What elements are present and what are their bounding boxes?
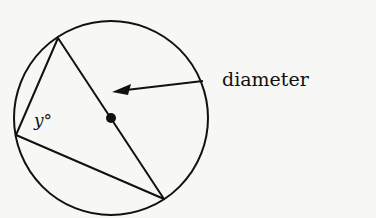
center-dot bbox=[106, 113, 116, 123]
pointer-arrow-line bbox=[126, 81, 203, 90]
diameter-label: diameter bbox=[222, 68, 310, 90]
angle-label: y° bbox=[33, 110, 52, 130]
arrowhead-icon bbox=[112, 84, 131, 95]
diagram-canvas: y° diameter bbox=[0, 0, 376, 218]
